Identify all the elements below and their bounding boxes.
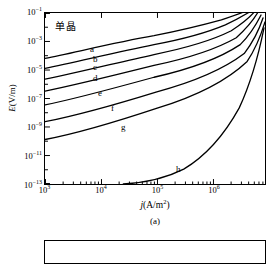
x-axis-title: j(A/m2) [44, 200, 266, 210]
next-figure-frame-partial [44, 240, 266, 264]
y-tick-label: 10−5 [27, 65, 42, 74]
curve-label-e: e [98, 89, 102, 98]
x-tick-label: 103 [39, 186, 51, 195]
curve-e [45, 15, 261, 105]
curve-h [123, 28, 264, 184]
y-axis-title: E(V/m) [7, 84, 17, 112]
figure-caption: (a) [44, 216, 266, 226]
plot-annotation-single-crystal: 单晶 [55, 18, 77, 33]
curve-label-c: c [93, 63, 97, 72]
y-tick-label: 10−1 [27, 8, 42, 17]
curve-label-f: f [111, 104, 114, 113]
x-tick-label: 105 [152, 186, 164, 195]
curve-label-h: h [176, 165, 181, 174]
data-curves [45, 13, 265, 184]
y-tick-label: 10−7 [27, 94, 42, 103]
plot-canvas [45, 13, 265, 184]
y-tick-label: 10−11 [24, 152, 42, 161]
x-tick-label: 104 [95, 186, 107, 195]
y-tick-label: 10−3 [27, 37, 42, 46]
curve-label-a: a [90, 45, 94, 54]
x-tick-label: 106 [208, 186, 220, 195]
y-tick-label: 10−9 [27, 123, 42, 132]
curve-label-g: g [121, 123, 126, 132]
y-axis-major-ticks [45, 13, 50, 183]
curve-label-d: d [93, 74, 98, 83]
plot-area: 单晶 a b c d e f g h [44, 12, 266, 185]
curve-f [45, 18, 263, 122]
